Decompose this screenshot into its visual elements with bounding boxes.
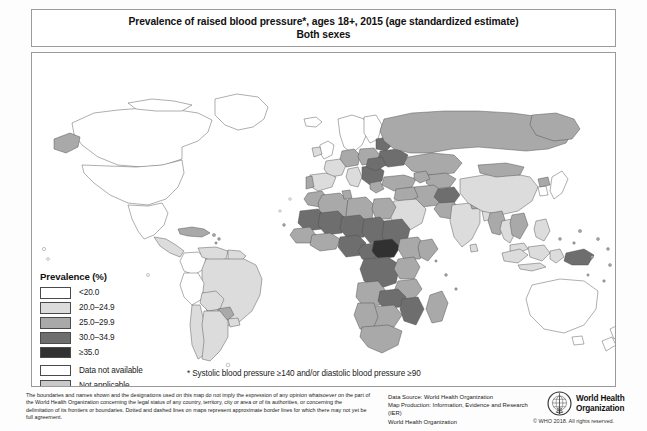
region-ireland <box>312 147 322 157</box>
legend-label-not-applicable: Not applicable <box>79 381 130 387</box>
who-name-line1: World Health <box>576 394 625 403</box>
pacific-island-dot-9 <box>587 274 589 276</box>
region-argentina <box>202 311 228 361</box>
region-north-korea <box>538 177 550 187</box>
legend-label-no-data: Data not available <box>79 366 143 375</box>
region-afghanistan <box>434 187 460 203</box>
legend-swatch-30-34 <box>40 332 71 344</box>
region-madagascar <box>426 291 448 323</box>
region-philippines <box>534 219 550 241</box>
legend-swatch-20-24 <box>40 302 71 314</box>
region-indonesia-borneo <box>528 245 550 261</box>
region-falkland-islands-dot <box>226 363 230 367</box>
who-name-line2: Organization <box>576 404 625 413</box>
legend-label-20-24: 20.0–24.9 <box>79 303 115 312</box>
region-indonesia-sumatra <box>502 249 528 263</box>
region-canada-arctic-islands <box>128 99 192 111</box>
region-kenya-uganda <box>394 257 420 279</box>
azores-dot <box>42 247 45 250</box>
map-legend: Prevalence (%) <20.0 20.0–24.9 25.0–29.9… <box>40 271 205 387</box>
region-new-zealand-south <box>602 337 615 351</box>
region-australia <box>526 279 598 333</box>
region-kazakhstan <box>404 153 462 175</box>
atlantic-island-dot-2 <box>279 210 281 212</box>
region-united-states <box>82 160 184 205</box>
source-line-production: Map Production: Information, Evidence an… <box>388 401 538 417</box>
region-japan <box>550 171 568 199</box>
page-title-line2: Both sexes <box>297 28 351 41</box>
region-iceland <box>304 117 322 127</box>
pacific-island-dot-1 <box>578 229 581 232</box>
legend-item-lt20: <20.0 <box>40 286 205 300</box>
legend-label-gte35: ≥35.0 <box>79 348 99 357</box>
cape-verde-dot <box>283 224 286 227</box>
region-caribbean-island-dot-2 <box>218 238 221 241</box>
legend-item-gte35: ≥35.0 <box>40 346 205 360</box>
legend-item-not-applicable: Not applicable <box>40 379 205 387</box>
legend-label-25-29: 25.0–29.9 <box>79 318 115 327</box>
legend-label-30-34: 30.0–34.9 <box>79 333 115 342</box>
legend-swatch-no-data <box>40 365 71 377</box>
region-mozambique <box>400 297 424 325</box>
pacific-island-dot-5 <box>609 264 612 267</box>
indian-ocean-island-dot-1 <box>445 274 448 277</box>
legend-swatch-gte35 <box>40 347 71 359</box>
hawaii-dot <box>47 258 50 261</box>
legend-swatch-lt20 <box>40 287 71 299</box>
title-box: Prevalence of raised blood pressure*, ag… <box>31 9 616 47</box>
region-tasmania <box>572 336 584 345</box>
pacific-island-dot-3 <box>607 248 610 251</box>
legend-swatch-not-applicable <box>40 380 71 387</box>
who-map-page: Prevalence of raised blood pressure*, ag… <box>0 0 647 431</box>
region-sri-lanka <box>470 244 478 252</box>
region-indonesia-sulawesi <box>550 249 564 263</box>
who-name: World Health Organization <box>576 394 625 413</box>
region-uruguay <box>228 318 240 327</box>
region-new-zealand-north <box>610 325 615 339</box>
map-box: .c0{fill:#ffffff}.c1{fill:#dcdcdc}.c2{fi… <box>31 52 616 387</box>
legend-title: Prevalence (%) <box>40 271 205 282</box>
region-papua-new-guinea <box>564 249 594 265</box>
region-tunisia <box>342 190 352 199</box>
region-caribbean <box>178 227 210 237</box>
pacific-island-dot-8 <box>603 280 606 283</box>
region-caribbean-island-dot-1 <box>212 233 215 236</box>
who-emblem-icon <box>547 391 572 416</box>
region-greece <box>370 181 384 193</box>
region-south-korea <box>538 186 548 196</box>
pacific-island-dot-7 <box>559 238 562 241</box>
region-south-africa <box>360 325 402 353</box>
region-vietnam-laos-cambodia <box>510 213 528 239</box>
legend-item-30-34: 30.0–34.9 <box>40 331 205 345</box>
map-disclaimer: The boundaries and names shown and the d… <box>26 392 371 422</box>
region-caribbean-island-dot-3 <box>215 242 217 244</box>
region-central-america <box>154 237 184 257</box>
legend-item-20-24: 20.0–24.9 <box>40 301 205 315</box>
region-indonesia-java <box>518 263 546 271</box>
pacific-island-dot-6 <box>573 242 576 245</box>
pacific-island-dot-4 <box>591 256 594 259</box>
region-greenland <box>215 94 268 130</box>
region-united-kingdom <box>320 141 334 159</box>
who-logo: World Health Organization <box>547 391 625 416</box>
pacific-island-dot-2 <box>597 238 600 241</box>
region-india <box>450 203 480 247</box>
region-west-africa-coast <box>310 233 340 251</box>
atlantic-island-dot-1 <box>289 198 292 201</box>
region-canada <box>72 108 212 167</box>
map-footnote: * Systolic blood pressure ≥140 and/or di… <box>187 369 421 378</box>
indian-ocean-island-dot-3 <box>435 260 437 262</box>
region-scandinavia <box>338 115 368 153</box>
legend-item-25-29: 25.0–29.9 <box>40 316 205 330</box>
page-title-line1: Prevalence of raised blood pressure*, ag… <box>128 15 518 28</box>
indian-ocean-island-dot-2 <box>455 288 458 291</box>
region-mexico <box>128 203 168 239</box>
source-line-org: World Health Organization <box>388 418 538 426</box>
region-somalia <box>418 239 438 261</box>
region-alaska <box>54 133 80 153</box>
legend-swatch-25-29 <box>40 317 71 329</box>
legend-item-no-data: Data not available <box>40 364 205 378</box>
legend-label-lt20: <20.0 <box>79 288 99 297</box>
region-italy <box>346 167 362 187</box>
source-block: Data Source: World Health Organization M… <box>388 393 538 426</box>
